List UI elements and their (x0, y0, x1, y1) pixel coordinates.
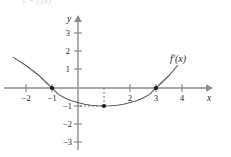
y-tick-label: 3 (66, 28, 71, 38)
y-tick-label: −1 (62, 101, 72, 111)
root-right-point (154, 86, 158, 90)
curve-label: f'(x) (170, 53, 187, 65)
y-tick-label: 2 (66, 46, 71, 56)
y-axis (74, 15, 82, 150)
x-axis-tick-labels: −2 −1 2 3 4 (21, 93, 185, 103)
vertex-point (102, 104, 106, 108)
x-axis-label: x (206, 93, 212, 103)
y-tick-label: 1 (66, 64, 71, 74)
y-tick-label: −2 (62, 119, 72, 129)
root-left-point (50, 86, 54, 90)
y-tick-label: −3 (62, 137, 72, 147)
x-tick-label: 3 (154, 93, 159, 103)
x-tick-label: −1 (47, 93, 57, 103)
x-tick-label: 4 (180, 93, 185, 103)
y-axis-label: y (66, 14, 72, 24)
function-graph-figure: −2 −1 2 3 4 3 2 1 −1 −2 −3 x y f'(x) (0, 0, 231, 157)
x-tick-label: −2 (21, 93, 31, 103)
x-tick-label: 2 (128, 93, 133, 103)
